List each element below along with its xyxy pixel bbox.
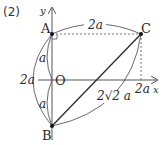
point-C-label: C: [141, 21, 151, 36]
dim-AO-label: a: [39, 51, 46, 65]
dim-BC-label: 2√2 a: [96, 89, 131, 103]
diagram-canvas: (2) y x A B C O 2a 2a a a 2√2 a 2a: [0, 0, 162, 145]
point-B-label: B: [42, 128, 52, 143]
dim-AB-label: 2a: [19, 73, 35, 87]
point-A-label: A: [40, 21, 51, 36]
problem-label: (2): [3, 5, 20, 19]
point-A: [50, 32, 54, 36]
arc-OB: [47, 80, 52, 126]
x-of-C-label: 2a: [134, 82, 150, 96]
arc-AO: [47, 34, 52, 80]
x-axis-label: x: [153, 84, 159, 95]
dim-AC-label: 2a: [87, 18, 103, 32]
dim-OB-label: a: [39, 97, 46, 111]
origin-label: O: [55, 73, 66, 88]
y-axis-label: y: [39, 5, 46, 16]
